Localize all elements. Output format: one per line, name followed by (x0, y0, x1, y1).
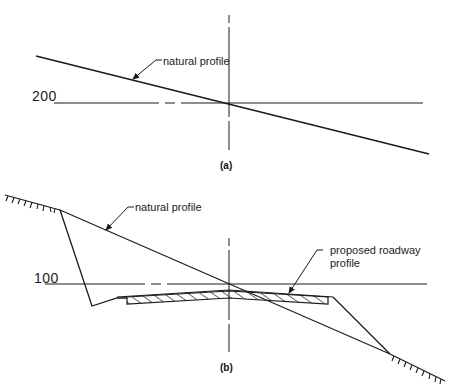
fill-slope-right (333, 297, 390, 354)
leader-arrow-b-natural (106, 207, 134, 230)
leader-arrow-a (133, 60, 162, 79)
elevation-label-100: 100 (34, 270, 59, 286)
elevation-label-200: 200 (32, 88, 57, 104)
proposed-roadway-label-line1: proposed roadway (330, 244, 421, 256)
proposed-roadway-band (127, 291, 328, 304)
natural-profile-b (60, 210, 390, 354)
natural-profile-label-b: natural profile (135, 201, 202, 213)
ground-hatch-left (5, 195, 60, 213)
natural-profile-a (36, 56, 429, 154)
figure-a-caption: (a) (220, 160, 232, 171)
proposed-roadway-label-line2: profile (330, 257, 360, 269)
leader-arrow-b-roadway (289, 250, 323, 293)
natural-profile-label-a: natural profile (163, 55, 230, 67)
figure-a (36, 15, 429, 154)
ground-hatch-right (390, 354, 445, 384)
figure-b (5, 195, 445, 384)
figure-b-caption: (b) (220, 362, 233, 373)
